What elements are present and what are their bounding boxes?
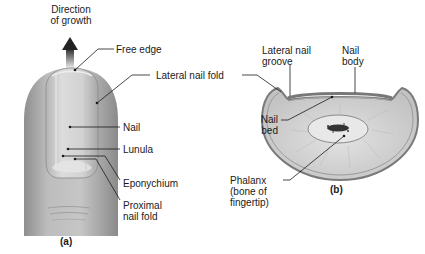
direction-of-growth-label: Direction of growth	[46, 4, 96, 26]
proximal-line1: Proximal	[123, 200, 162, 211]
phalanx-line2: (bone of	[230, 186, 269, 197]
label-free-edge: Free edge	[116, 44, 162, 55]
nail-body-line1: Nail	[342, 45, 364, 56]
label-lateral-nail-fold: Lateral nail fold	[156, 70, 224, 81]
label-lateral-nail-groove: Lateral nail groove	[262, 45, 311, 67]
nail-body-line2: body	[342, 56, 364, 67]
nail-anatomy-figure	[0, 0, 425, 254]
label-eponychium: Eponychium	[123, 178, 178, 189]
proximal-line2: nail fold	[123, 211, 162, 222]
label-proximal-nail-fold: Proximal nail fold	[123, 200, 162, 222]
finger-illustration	[24, 68, 118, 236]
nail-bed-line2: bed	[248, 125, 278, 136]
phalanx-line3: fingertip)	[230, 197, 269, 208]
phalanx-line1: Phalanx	[230, 175, 269, 186]
label-nail-bed: Nail bed	[248, 114, 278, 136]
fingertip-cross-section-illustration	[262, 88, 418, 180]
panel-a-caption: (a)	[60, 236, 72, 247]
direction-label-line2: of growth	[46, 15, 96, 26]
direction-label-line1: Direction	[46, 4, 96, 15]
label-nail-body: Nail body	[342, 45, 364, 67]
groove-line2: groove	[262, 56, 311, 67]
panel-b-caption: (b)	[330, 184, 343, 195]
label-phalanx: Phalanx (bone of fingertip)	[230, 175, 269, 208]
direction-of-growth-arrow-icon	[62, 37, 78, 70]
nail-bed-line1: Nail	[248, 114, 278, 125]
label-nail: Nail	[123, 122, 140, 133]
groove-line1: Lateral nail	[262, 45, 311, 56]
label-lunula: Lunula	[123, 144, 153, 155]
